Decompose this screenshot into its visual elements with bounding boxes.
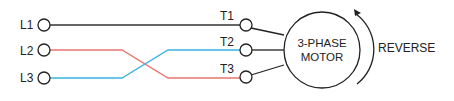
lead-t3	[251, 65, 284, 75]
label-t1: T1	[220, 9, 234, 23]
terminal-l3	[38, 72, 50, 84]
label-t3: T3	[220, 62, 234, 76]
terminal-l1	[38, 19, 50, 31]
terminal-t2	[240, 44, 252, 56]
label-t2: T2	[220, 35, 234, 49]
wire-l3-t2	[50, 50, 240, 78]
lead-t1	[251, 28, 284, 35]
label-l2: L2	[20, 44, 34, 58]
motor-circle	[284, 12, 360, 88]
label-l1: L1	[20, 18, 34, 32]
direction-label: REVERSE	[378, 41, 435, 55]
terminal-t1	[240, 19, 252, 31]
motor-label-line2: MOTOR	[301, 51, 344, 63]
motor-wiring-diagram: L1 L2 L3 T1 T2 T3 3-PHASE MOTOR REVERSE	[0, 0, 454, 101]
label-l3: L3	[20, 71, 34, 85]
motor-label-line1: 3-PHASE	[297, 37, 347, 49]
terminal-t3	[240, 71, 252, 83]
terminal-l2	[38, 44, 50, 56]
